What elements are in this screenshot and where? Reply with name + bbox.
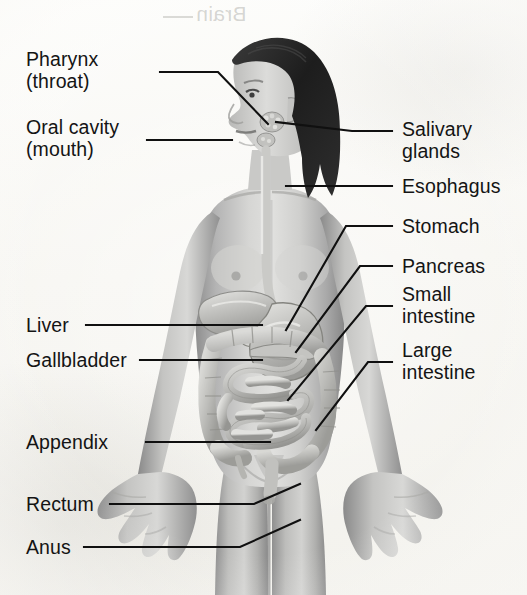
leader-rectum [110,484,300,504]
digestive-system-figure: Brain Pharynx (throat) Oral cavity (mout… [0,0,527,595]
label-gallbladder: Gallbladder [26,349,127,371]
leader-pharynx [160,72,268,124]
label-liver: Liver [26,314,69,336]
leader-pancreas [296,266,392,352]
leader-small-intestine [288,306,392,400]
label-pancreas: Pancreas [402,255,485,277]
label-appendix: Appendix [26,431,108,453]
label-esophagus: Esophagus [402,175,500,197]
label-anus: Anus [26,536,71,558]
leader-stomach [286,226,392,330]
leader-salivary-glands [276,122,392,131]
label-oral-cavity: Oral cavity (mouth) [26,116,119,160]
label-salivary-glands: Salivary glands [402,118,472,162]
label-large-intestine: Large intestine [402,339,476,383]
leader-anus [84,520,300,547]
label-pharynx: Pharynx (throat) [26,48,98,92]
leader-large-intestine [316,362,392,430]
label-small-intestine: Small intestine [402,283,476,327]
label-stomach: Stomach [402,215,480,237]
label-rectum: Rectum [26,493,94,515]
